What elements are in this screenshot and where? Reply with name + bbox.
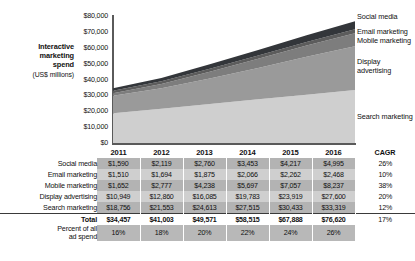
cell-cagr-mobile-marketing: 38% (355, 180, 415, 191)
cell-2016-search-marketing: $33,319 (312, 202, 355, 214)
cell-2012-display-advertising: $12,860 (140, 191, 183, 202)
cell-2014-mobile-marketing: $5,697 (226, 180, 269, 191)
cell-2012-percent-of-ad-spend: 18% (140, 225, 183, 241)
area-series-svg (113, 16, 355, 143)
table-percent-row: Percent of allad spend16%18%20%22%24%26% (0, 225, 415, 241)
row-label-percent-line2: ad spend (69, 232, 97, 241)
column-header-2015: 2015 (269, 147, 312, 158)
cell-cagr-display-advertising: 20% (355, 191, 415, 202)
cell-2013-total: $49,571 (183, 214, 226, 226)
cell-2012-social-media: $2,119 (140, 158, 183, 169)
cell-2015-total: $67,888 (269, 214, 312, 226)
y-tick-80000: $80,000 (60, 12, 108, 20)
cell-2016-percent-of-ad-spend: 26% (312, 225, 355, 241)
table-row: Social media$1,590$2,119$2,760$3,453$4,2… (0, 158, 415, 169)
stacked-area-chart: Interactive marketing spend (US$ million… (0, 0, 415, 150)
column-header-2011: 2011 (97, 147, 140, 158)
column-header-cagr: CAGR (355, 147, 415, 158)
series-label-display-line2: advertising (357, 66, 391, 75)
row-label-social-media: Social media (0, 158, 97, 169)
cell-cagr-social-media: 26% (355, 158, 415, 169)
y-tick-10000: $10,000 (60, 123, 108, 131)
row-label-percent-of-all-ad-spend: Percent of allad spend (0, 225, 97, 241)
cell-cagr-total: 17% (355, 214, 415, 226)
cell-2016-email-marketing: $2,468 (312, 169, 355, 180)
y-tick-30000: $30,000 (60, 91, 108, 99)
cell-2016-social-media: $4,995 (312, 158, 355, 169)
cell-2011-social-media: $1,590 (97, 158, 140, 169)
y-tick-60000: $60,000 (60, 44, 108, 52)
cell-2014-search-marketing: $27,515 (226, 202, 269, 214)
data-table: 2011 2012 2013 2014 2015 2016 CAGR Socia… (0, 147, 415, 241)
cell-2015-search-marketing: $30,433 (269, 202, 312, 214)
row-label-mobile-marketing: Mobile marketing (0, 180, 97, 191)
cell-cagr-search-marketing: 12% (355, 202, 415, 214)
cell-2011-search-marketing: $18,756 (97, 202, 140, 214)
table-row: Mobile marketing$1,652$2,777$4,238$5,697… (0, 180, 415, 191)
y-tick-0: $0 (60, 139, 108, 147)
cell-2015-mobile-marketing: $7,057 (269, 180, 312, 191)
column-header-2012: 2012 (140, 147, 183, 158)
cell-2013-display-advertising: $16,085 (183, 191, 226, 202)
cell-2016-display-advertising: $27,600 (312, 191, 355, 202)
cell-2011-display-advertising: $10,949 (97, 191, 140, 202)
series-label-display-advertising: Display advertising (357, 58, 391, 75)
cell-2013-search-marketing: $24,613 (183, 202, 226, 214)
cell-cagr-percent (355, 225, 415, 241)
infographic-sheet: Interactive marketing spend (US$ million… (0, 0, 415, 261)
cell-2011-total: $34,457 (97, 214, 140, 226)
column-header-2016: 2016 (312, 147, 355, 158)
y-tick-40000: $40,000 (60, 76, 108, 84)
cell-2011-percent-of-ad-spend: 16% (97, 225, 140, 241)
x-axis-line (112, 143, 356, 145)
table-body: Social media$1,590$2,119$2,760$3,453$4,2… (0, 158, 415, 241)
plot-area (113, 16, 355, 143)
cell-2012-search-marketing: $21,553 (140, 202, 183, 214)
table-corner-cell (0, 147, 97, 158)
series-label-mobile-marketing: Mobile marketing (357, 37, 411, 46)
cell-2015-percent-of-ad-spend: 24% (269, 225, 312, 241)
series-label-social-media: Social media (357, 13, 398, 22)
row-label-search-marketing: Search marketing (0, 202, 97, 214)
cell-2016-total: $76,620 (312, 214, 355, 226)
cell-2014-email-marketing: $2,066 (226, 169, 269, 180)
column-header-2013: 2013 (183, 147, 226, 158)
table-header-row: 2011 2012 2013 2014 2015 2016 CAGR (0, 147, 415, 158)
cell-2014-percent-of-ad-spend: 22% (226, 225, 269, 241)
cell-2011-email-marketing: $1,510 (97, 169, 140, 180)
cell-cagr-email-marketing: 10% (355, 169, 415, 180)
cell-2013-email-marketing: $1,875 (183, 169, 226, 180)
table-row: Search marketing$18,756$21,553$24,613$27… (0, 202, 415, 214)
column-header-2014: 2014 (226, 147, 269, 158)
cell-2014-total: $58,515 (226, 214, 269, 226)
row-label-email-marketing: Email marketing (0, 169, 97, 180)
cell-2013-percent-of-ad-spend: 20% (183, 225, 226, 241)
y-tick-70000: $70,000 (60, 28, 108, 36)
row-label-display-advertising: Display advertising (0, 191, 97, 202)
table-row: Email marketing$1,510$1,694$1,875$2,066$… (0, 169, 415, 180)
cell-2013-mobile-marketing: $4,238 (183, 180, 226, 191)
cell-2015-email-marketing: $2,262 (269, 169, 312, 180)
cell-2012-mobile-marketing: $2,777 (140, 180, 183, 191)
cell-2015-display-advertising: $23,919 (269, 191, 312, 202)
cell-2012-total: $41,003 (140, 214, 183, 226)
cell-2011-mobile-marketing: $1,652 (97, 180, 140, 191)
cell-2014-social-media: $3,453 (226, 158, 269, 169)
cell-2013-social-media: $2,760 (183, 158, 226, 169)
cell-2016-mobile-marketing: $8,237 (312, 180, 355, 191)
series-label-search-marketing: Search marketing (357, 113, 413, 122)
cell-2015-social-media: $4,217 (269, 158, 312, 169)
cell-2014-display-advertising: $19,783 (226, 191, 269, 202)
cell-2012-email-marketing: $1,694 (140, 169, 183, 180)
y-tick-50000: $50,000 (60, 60, 108, 68)
table-row: Display advertising$10,949$12,860$16,085… (0, 191, 415, 202)
y-tick-20000: $20,000 (60, 107, 108, 115)
